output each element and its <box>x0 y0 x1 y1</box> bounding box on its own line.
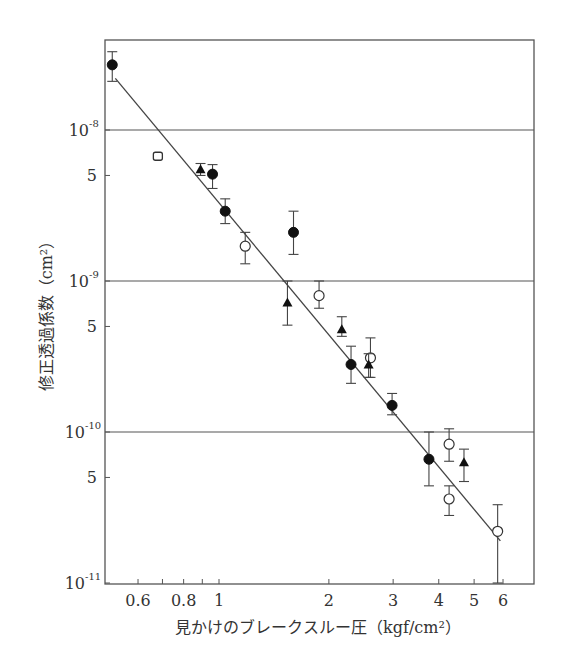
x-tick-label: 0.8 <box>171 591 196 610</box>
y-tick-label: 10 <box>69 272 89 291</box>
data-point-open-square <box>153 152 162 160</box>
regression-line <box>115 78 500 541</box>
data-point-filled-circle <box>346 359 356 369</box>
data-point-filled-circle <box>220 206 230 216</box>
y-axis-ticks: 10-8510-9510-10510-11 <box>65 118 110 593</box>
y-tick-exponent: -10 <box>85 420 101 431</box>
y-tick-label: 10 <box>69 121 89 140</box>
x-axis-label: 見かけのブレークスルー圧（kgf/cm²） <box>175 618 461 637</box>
x-tick-label: 5 <box>469 591 479 610</box>
data-point-filled-circle <box>424 454 434 464</box>
y-tick-label: 10 <box>65 574 85 593</box>
fit-line <box>115 78 500 541</box>
x-tick-label: 2 <box>324 591 334 610</box>
plot-frame <box>105 40 534 584</box>
x-tick-label: 4 <box>434 591 444 610</box>
y-tick-label: 5 <box>87 317 97 336</box>
data-point-filled-triangle <box>196 164 206 173</box>
x-tick-label: 1 <box>214 591 224 610</box>
y-tick-exponent: -11 <box>85 571 101 582</box>
data-point-filled-circle <box>107 60 117 70</box>
data-point-filled-circle <box>208 169 218 179</box>
data-point-filled-circle <box>289 227 299 237</box>
y-tick-label: 10 <box>65 423 85 442</box>
x-tick-label: 6 <box>498 591 508 610</box>
data-point-open-circle <box>240 241 250 251</box>
data-point-open-circle <box>444 439 454 449</box>
data-point-filled-triangle <box>282 298 292 307</box>
y-tick-exponent: -9 <box>89 269 99 280</box>
data-point-open-circle <box>444 494 454 504</box>
y-tick-label: 5 <box>87 166 97 185</box>
data-point-open-circle <box>314 291 324 301</box>
data-point-filled-triangle <box>459 457 469 466</box>
data-point-open-circle <box>365 353 375 363</box>
data-point-open-circle <box>493 526 503 536</box>
y-tick-label: 5 <box>87 468 97 487</box>
y-axis-label: 修正透過係数（cm²） <box>37 233 56 392</box>
chart-figure: 0.60.8123456 10-8510-9510-10510-11 見かけのブ… <box>0 0 565 671</box>
data-point-filled-circle <box>387 400 397 410</box>
y-tick-exponent: -8 <box>89 118 99 129</box>
x-tick-label: 0.6 <box>125 591 150 610</box>
data-point-filled-triangle <box>337 324 347 333</box>
data-points <box>107 52 502 583</box>
x-tick-label: 3 <box>388 591 398 610</box>
